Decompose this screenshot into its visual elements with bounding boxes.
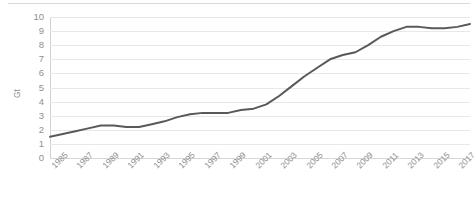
y-tick-label: 3 — [22, 111, 44, 121]
y-tick-label: 1 — [22, 139, 44, 149]
line-chart: 012345678910 Gt 198519871989199119931995… — [0, 0, 476, 199]
y-tick-label: 0 — [22, 153, 44, 163]
gridline — [50, 158, 470, 159]
y-axis-title: Gt — [13, 83, 22, 105]
y-tick-label: 4 — [22, 97, 44, 107]
y-tick-label: 2 — [22, 125, 44, 135]
y-tick-label: 9 — [22, 26, 44, 36]
y-tick-label: 6 — [22, 68, 44, 78]
y-tick-label: 8 — [22, 40, 44, 50]
top-divider — [8, 3, 470, 4]
series-line-emissions — [50, 24, 470, 137]
y-tick-label: 5 — [22, 83, 44, 93]
series-line-layer — [50, 17, 470, 158]
y-tick-label: 7 — [22, 54, 44, 64]
y-tick-label: 10 — [22, 12, 44, 22]
